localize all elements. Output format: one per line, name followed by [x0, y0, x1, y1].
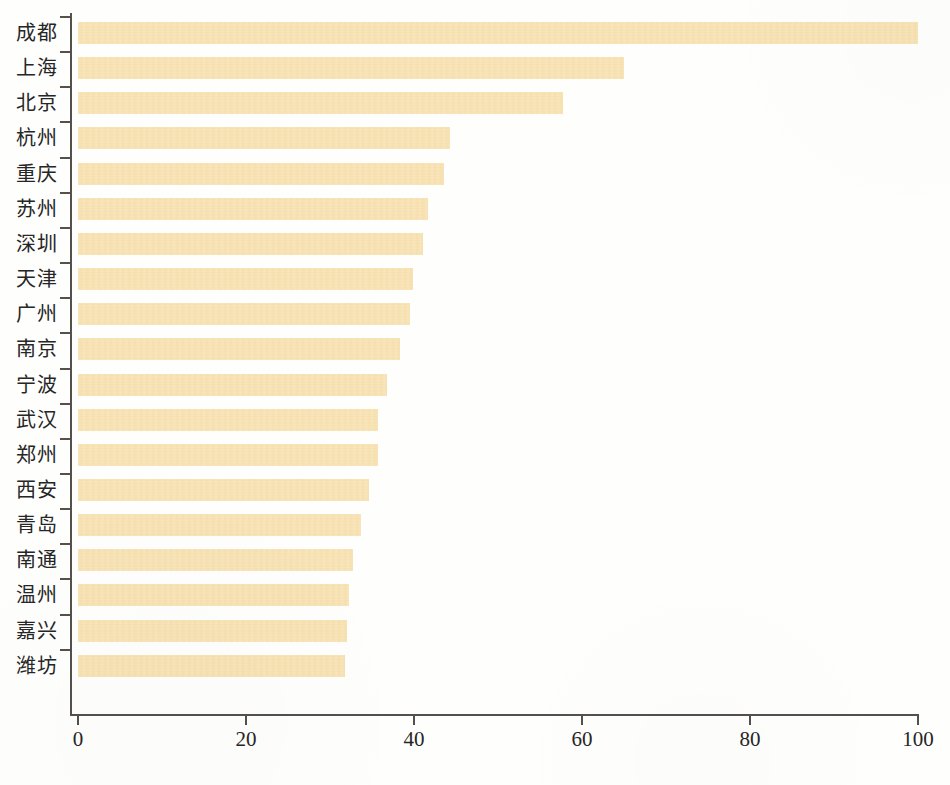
bar: [78, 338, 400, 360]
bar-row: 天津: [0, 268, 950, 303]
category-label: 天津: [0, 268, 58, 290]
category-label: 深圳: [0, 233, 58, 255]
bar-row: 南通: [0, 549, 950, 584]
category-label: 武汉: [0, 409, 58, 431]
y-axis-tick: [60, 543, 71, 545]
bar-row: 杭州: [0, 127, 950, 162]
x-axis-tick-label: 80: [740, 727, 761, 751]
y-axis-tick: [60, 332, 71, 334]
bar: [78, 514, 361, 536]
category-label: 宁波: [0, 374, 58, 396]
y-axis-tick: [60, 614, 71, 616]
bar: [78, 584, 349, 606]
bar: [78, 92, 563, 114]
category-label: 南京: [0, 338, 58, 360]
y-axis-tick: [60, 403, 71, 405]
y-axis-tick: [60, 508, 71, 510]
x-axis-tick-label: 60: [572, 727, 593, 751]
category-label: 郑州: [0, 444, 58, 466]
category-label: 重庆: [0, 163, 58, 185]
x-axis-line: [70, 714, 919, 716]
y-axis-tick: [60, 438, 71, 440]
bar: [78, 374, 387, 396]
bar: [78, 655, 345, 677]
category-label: 杭州: [0, 127, 58, 149]
bar-row: 深圳: [0, 233, 950, 268]
category-label: 潍坊: [0, 655, 58, 677]
bar-row: 苏州: [0, 198, 950, 233]
bar-row: 广州: [0, 303, 950, 338]
y-axis-tick: [60, 649, 71, 651]
bar-row: 上海: [0, 57, 950, 92]
bar: [78, 409, 378, 431]
y-axis-tick: [60, 16, 71, 18]
bar-row: 武汉: [0, 409, 950, 444]
bar-row: 南京: [0, 338, 950, 373]
bar-row: 北京: [0, 92, 950, 127]
x-axis-tick-label: 0: [73, 727, 84, 751]
bar: [78, 303, 410, 325]
y-axis-tick: [60, 578, 71, 580]
bar: [78, 198, 428, 220]
category-label: 苏州: [0, 198, 58, 220]
bar-row: 郑州: [0, 444, 950, 479]
bar-row: 成都: [0, 22, 950, 57]
bar: [78, 163, 444, 185]
bar-row: 青岛: [0, 514, 950, 549]
category-label: 青岛: [0, 514, 58, 536]
y-axis-tick: [60, 86, 71, 88]
bar-row: 嘉兴: [0, 620, 950, 655]
category-label: 广州: [0, 303, 58, 325]
category-label: 西安: [0, 479, 58, 501]
bar: [78, 268, 413, 290]
x-axis-tick: [413, 714, 415, 725]
bar-chart-figure: 成都上海北京杭州重庆苏州深圳天津广州南京宁波武汉郑州西安青岛南通温州嘉兴潍坊 0…: [0, 0, 950, 785]
x-axis-tick: [245, 714, 247, 725]
bar: [78, 57, 624, 79]
bar: [78, 549, 353, 571]
x-axis-tick-label: 40: [404, 727, 425, 751]
category-label: 上海: [0, 57, 58, 79]
x-axis-tick-label: 100: [902, 727, 934, 751]
category-label: 温州: [0, 584, 58, 606]
bar: [78, 479, 369, 501]
bar: [78, 127, 450, 149]
y-axis-tick: [60, 297, 71, 299]
y-axis-tick: [60, 262, 71, 264]
x-axis-tick-label: 20: [236, 727, 257, 751]
bar-row: 温州: [0, 584, 950, 619]
bar: [78, 22, 918, 44]
bar-row: 宁波: [0, 374, 950, 409]
bar-row: 西安: [0, 479, 950, 514]
x-axis-tick: [77, 714, 79, 725]
category-label: 南通: [0, 549, 58, 571]
y-axis-tick: [60, 473, 71, 475]
x-axis-tick: [749, 714, 751, 725]
y-axis-tick: [60, 121, 71, 123]
category-label: 嘉兴: [0, 620, 58, 642]
x-axis-tick: [917, 714, 919, 725]
y-axis-tick: [60, 368, 71, 370]
y-axis-tick: [60, 192, 71, 194]
category-label: 北京: [0, 92, 58, 114]
bar-row: 潍坊: [0, 655, 950, 690]
category-label: 成都: [0, 22, 58, 44]
y-axis-tick: [60, 227, 71, 229]
y-axis-tick: [60, 157, 71, 159]
bar: [78, 444, 378, 466]
bar: [78, 620, 347, 642]
y-axis-tick: [60, 51, 71, 53]
bar-row: 重庆: [0, 163, 950, 198]
x-axis-tick: [581, 714, 583, 725]
bar: [78, 233, 423, 255]
